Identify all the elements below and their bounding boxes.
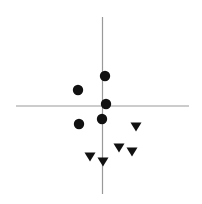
circle-marker [74, 119, 84, 129]
series-circles [73, 71, 111, 129]
scatter-plot [0, 0, 202, 204]
triangle-down-marker [131, 123, 142, 132]
data-series [73, 71, 142, 167]
triangle-down-marker [98, 158, 109, 167]
triangle-down-marker [127, 148, 138, 157]
triangle-down-marker [114, 144, 125, 153]
circle-marker [101, 99, 111, 109]
triangle-down-marker [85, 153, 96, 162]
circle-marker [100, 71, 110, 81]
series-triangles [85, 123, 142, 167]
circle-marker [97, 114, 107, 124]
circle-marker [73, 85, 83, 95]
